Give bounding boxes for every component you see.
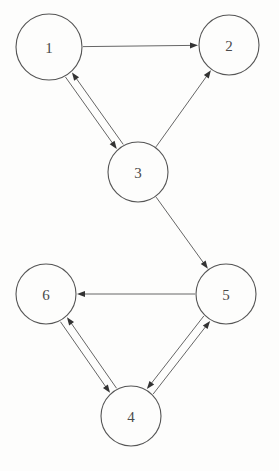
node-label-1: 1: [45, 40, 53, 56]
arrowhead-3-to-1: [72, 72, 79, 80]
edge-6-to-4: [60, 322, 107, 390]
arrowhead-5-to-6: [77, 291, 85, 297]
node-label-4: 4: [127, 409, 135, 425]
edge-4-to-6: [70, 321, 117, 389]
graph-node-3[interactable]: 3: [108, 142, 168, 202]
arrowhead-1-to-3: [110, 141, 117, 149]
graph-node-6[interactable]: 6: [16, 264, 76, 324]
arrowhead-4-to-6: [67, 317, 74, 325]
node-label-6: 6: [42, 287, 50, 303]
graph-diagram-canvas: 123456: [0, 0, 279, 471]
graph-svg: 123456: [0, 0, 279, 471]
node-label-3: 3: [134, 165, 142, 181]
edge-1-to-3: [65, 77, 114, 145]
graph-node-4[interactable]: 4: [101, 386, 161, 446]
arrowhead-1-to-2: [190, 42, 198, 48]
arrowhead-3-to-2: [204, 70, 211, 78]
node-label-5: 5: [222, 287, 230, 303]
edge-3-to-1: [75, 76, 124, 144]
edge-1-to-2: [83, 45, 194, 46]
graph-node-5[interactable]: 5: [196, 264, 256, 324]
graph-node-2[interactable]: 2: [199, 15, 259, 75]
node-label-2: 2: [225, 38, 233, 54]
arrowhead-4-to-5: [203, 321, 210, 329]
edge-5-to-4: [150, 316, 204, 386]
arrowhead-5-to-4: [147, 381, 154, 389]
edge-3-to-2: [156, 74, 208, 147]
nodes-layer: 123456: [16, 14, 259, 446]
arrowhead-3-to-5: [201, 261, 208, 269]
edge-4-to-5: [153, 324, 207, 394]
arrowhead-6-to-4: [103, 385, 110, 393]
edge-3-to-5: [156, 197, 205, 265]
edges-layer: [60, 42, 211, 394]
graph-node-1[interactable]: 1: [16, 14, 82, 80]
